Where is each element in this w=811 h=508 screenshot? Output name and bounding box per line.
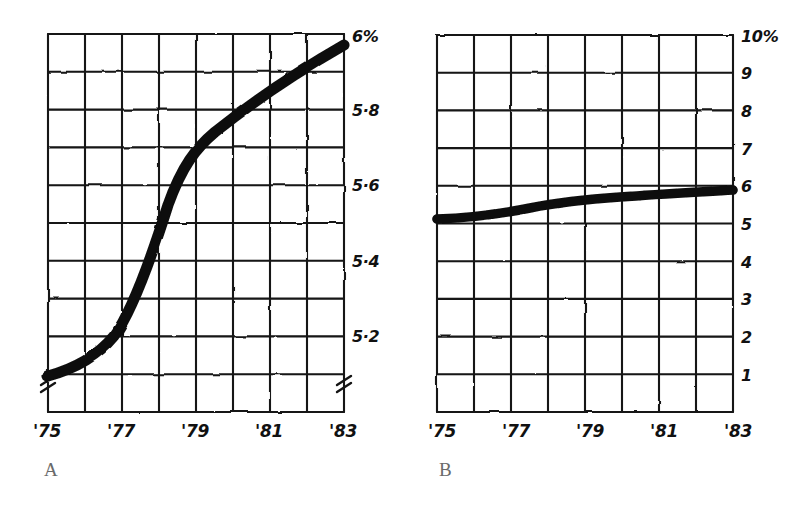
y-tick-label-a-0: 6% bbox=[352, 27, 379, 46]
y-tick-label-b-0: 10% bbox=[741, 27, 778, 46]
panel-caption-a: A bbox=[44, 459, 58, 481]
y-tick-label-a-1: 5·8 bbox=[352, 101, 379, 120]
panel-a: 6% 5·8 5·6 5·4 5·2 '75 '77 '79 '81 '83 A bbox=[0, 0, 405, 508]
y-tick-label-b-8: 2 bbox=[741, 328, 752, 347]
x-tick-label-b-4: '83 bbox=[724, 421, 752, 441]
x-tick-label-b-2: '79 bbox=[576, 421, 604, 441]
x-tick-label-b-1: '77 bbox=[502, 421, 530, 441]
x-tick-label-b-3: '81 bbox=[650, 421, 678, 441]
figure-stage: 6% 5·8 5·6 5·4 5·2 '75 '77 '79 '81 '83 A… bbox=[0, 0, 811, 508]
y-tick-label-b-4: 6 bbox=[741, 177, 752, 196]
y-tick-label-a-2: 5·6 bbox=[352, 176, 379, 195]
y-tick-label-b-6: 4 bbox=[741, 253, 752, 272]
y-tick-label-b-1: 9 bbox=[741, 64, 752, 83]
y-tick-label-a-3: 5·4 bbox=[352, 252, 379, 271]
x-tick-label-a-1: '77 bbox=[107, 421, 135, 441]
y-tick-label-b-2: 8 bbox=[741, 102, 752, 121]
x-tick-label-a-0: '75 bbox=[33, 421, 61, 441]
panel-b: 10% 9 8 7 6 5 4 3 2 1 '75 '77 '79 '81 '8… bbox=[406, 0, 811, 508]
x-tick-label-a-4: '83 bbox=[329, 421, 357, 441]
y-tick-label-b-3: 7 bbox=[741, 140, 752, 159]
x-tick-label-b-0: '75 bbox=[428, 421, 456, 441]
y-tick-label-a-4: 5·2 bbox=[352, 327, 379, 346]
y-tick-label-b-9: 1 bbox=[741, 366, 752, 385]
x-tick-label-a-3: '81 bbox=[255, 421, 283, 441]
y-tick-label-b-5: 5 bbox=[741, 215, 752, 234]
y-tick-label-b-7: 3 bbox=[741, 290, 752, 309]
panel-caption-b: B bbox=[439, 459, 452, 481]
x-tick-label-a-2: '79 bbox=[181, 421, 209, 441]
